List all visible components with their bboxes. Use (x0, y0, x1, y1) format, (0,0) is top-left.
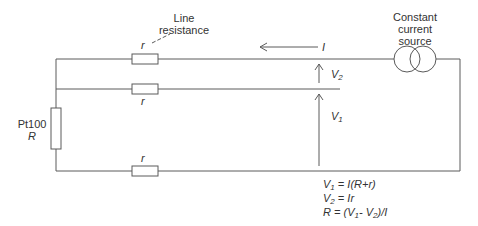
pt100-resistor (51, 108, 61, 149)
v1-sub: 1 (338, 115, 342, 124)
label-constant: Constant (385, 11, 445, 23)
eq3-a: = (V (331, 206, 355, 218)
eq3-c: )/I (377, 206, 387, 218)
line-resistor-top (132, 54, 158, 64)
label-current: current (385, 23, 445, 35)
pt100-label: Pt100 R (14, 118, 50, 142)
current-source-circle-right (410, 46, 436, 72)
source-label: Constant current source (385, 11, 445, 47)
equation-r: R = (V1- V2)/I (323, 205, 387, 219)
line-resistance-label: Line resistance (154, 12, 214, 36)
v1-label: V1 (331, 110, 343, 122)
eq1-rhs: = I(R+r) (335, 178, 376, 190)
label-source: source (385, 35, 445, 47)
line-resistor-bottom (132, 166, 158, 176)
r-bottom-label: r (141, 152, 145, 164)
equation-v1: V1 = I(R+r) (323, 177, 387, 191)
r-mid-label: r (141, 95, 145, 107)
v2-label: V2 (331, 68, 343, 80)
eq3-lhs: R (323, 206, 331, 218)
current-label: I (322, 41, 325, 53)
r-top-label: r (141, 39, 145, 51)
line-resistor-middle (132, 84, 158, 94)
label-line: Line (154, 12, 214, 24)
v2-sub: 2 (338, 73, 342, 82)
current-source-circle-left (394, 46, 420, 72)
label-resistance: resistance (154, 24, 214, 36)
eq3-b: - V (359, 206, 373, 218)
label-r: R (14, 130, 50, 142)
equation-v2: V2 = Ir (323, 191, 387, 205)
eq2-rhs: = Ir (335, 192, 354, 204)
label-pt100: Pt100 (14, 118, 50, 130)
equations: V1 = I(R+r) V2 = Ir R = (V1- V2)/I (323, 177, 387, 219)
